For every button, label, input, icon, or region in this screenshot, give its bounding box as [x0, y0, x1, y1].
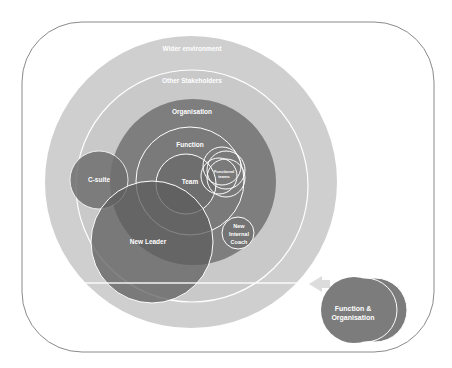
new-internal-coach-label-line2: Internal: [229, 231, 249, 237]
team-label: Team: [182, 178, 199, 185]
functional-teams-label-line2: teams: [218, 174, 230, 179]
diagram-canvas: Wider environment Other Stakeholders Org…: [0, 0, 452, 368]
new-internal-coach-label-line3: Coach: [231, 239, 248, 245]
organisation-label: Organisation: [172, 108, 212, 116]
new-internal-coach-label-line1: New: [233, 223, 245, 229]
function-organisation-label-line1: Function &: [335, 305, 372, 312]
c-suite-label: C-suite: [88, 176, 110, 183]
wider-environment-label: Wider environment: [163, 45, 223, 52]
function-label: Function: [176, 141, 203, 148]
function-organisation-label-line2: Organisation: [331, 314, 374, 322]
new-leader-label: New Leader: [130, 238, 167, 245]
other-stakeholders-label: Other Stakeholders: [162, 77, 222, 84]
